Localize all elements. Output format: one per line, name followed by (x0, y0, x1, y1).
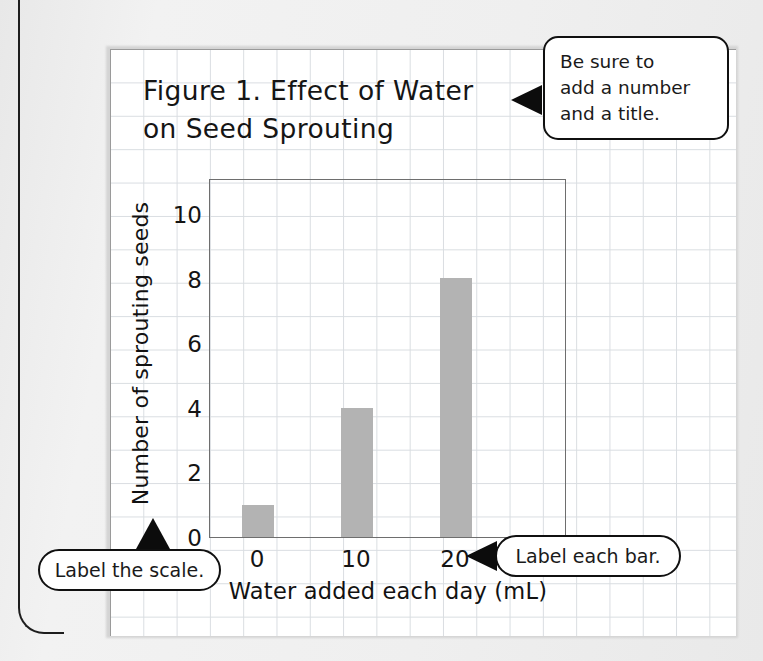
figure-title: Figure 1. Effect of Water on Seed Sprout… (143, 72, 513, 148)
bar-10-mL (341, 408, 373, 537)
callout-pointer-up-icon (136, 518, 170, 549)
callout-scale-note: Label the scale. (38, 549, 221, 591)
notebook-spine-line (18, 0, 64, 634)
bar-0-mL (242, 505, 274, 537)
plot-area-frame (209, 179, 566, 538)
worksheet-page: Figure 1. Effect of Water on Seed Sprout… (0, 0, 763, 661)
x-axis-title: Water added each day (mL) (196, 578, 580, 604)
callout-scale-note-text: Label the scale. (40, 559, 219, 581)
y-tick-8: 8 (162, 267, 202, 293)
y-axis-title: Number of sprouting seeds (128, 189, 153, 519)
bar-20-mL (440, 278, 472, 537)
y-tick-6: 6 (162, 331, 202, 357)
callout-bar-note-text: Label each bar. (497, 545, 679, 567)
x-tick-10: 10 (321, 546, 391, 572)
callout-title-note: Be sure to add a number and a title. (543, 36, 729, 140)
callout-title-note-text: Be sure to add a number and a title. (560, 49, 721, 127)
callout-pointer-left-icon (511, 85, 542, 115)
x-tick-0: 0 (222, 546, 292, 572)
y-axis-tick-labels: 0 2 4 6 8 10 (158, 179, 202, 538)
y-tick-2: 2 (162, 460, 202, 486)
callout-bar-note: Label each bar. (495, 535, 681, 577)
callout-pointer-left-icon (466, 541, 497, 571)
y-tick-10: 10 (162, 202, 202, 228)
y-tick-4: 4 (162, 396, 202, 422)
